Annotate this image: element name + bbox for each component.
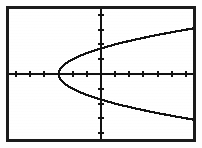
calculator-screen-frame	[6, 6, 196, 142]
graph-svg	[9, 9, 193, 139]
graph-plot-area[interactable]	[9, 9, 193, 139]
calculator-screenshot	[0, 0, 202, 148]
